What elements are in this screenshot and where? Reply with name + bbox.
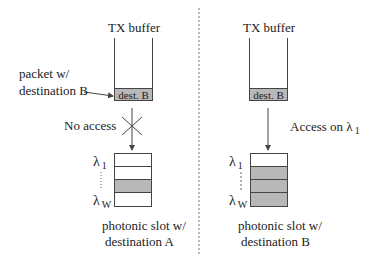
right-lambda-w: λW xyxy=(229,194,247,212)
wavelength-lane xyxy=(251,154,287,167)
left-buffer-title: TX buffer xyxy=(108,21,160,35)
packet-annotation-line2: destination B xyxy=(19,84,88,98)
wavelength-lane xyxy=(115,193,151,206)
right-caption-line1: photonic slot w/ xyxy=(238,219,322,233)
packet-annotation-line1: packet w/ xyxy=(19,67,69,81)
right-photonic-slot xyxy=(250,153,288,207)
left-caption-line1: photonic slot w/ xyxy=(102,219,186,233)
no-access-label: No access xyxy=(64,119,116,133)
left-packet: dest. B xyxy=(114,88,153,101)
wavelength-lane xyxy=(115,180,151,193)
left-photonic-slot xyxy=(114,153,152,207)
wavelength-lane xyxy=(251,193,287,206)
wavelength-lane xyxy=(115,167,151,180)
wavelength-lane xyxy=(251,167,287,180)
annotation-leader xyxy=(84,92,113,96)
wavelength-lane xyxy=(115,154,151,167)
right-caption-line2: destination B xyxy=(241,235,310,249)
access-label: Access on λ1 xyxy=(290,120,360,138)
right-lambda-1: λ1 xyxy=(229,155,243,173)
right-buffer-title: TX buffer xyxy=(243,21,295,35)
wavelength-lane xyxy=(251,180,287,193)
right-packet: dest. B xyxy=(249,88,288,101)
left-caption-line2: destination A xyxy=(105,235,174,249)
left-lambda-w: λW xyxy=(93,194,111,212)
left-lambda-1: λ1 xyxy=(93,155,107,173)
